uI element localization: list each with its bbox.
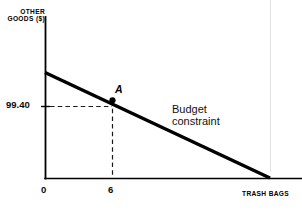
budget-constraint-line <box>45 73 270 179</box>
y-tick-label-99-40: 99.40 <box>6 100 30 111</box>
budget-constraint-figure: OTHER GOODS ($) TRASH BAGS 99.40 0 6 A B… <box>0 0 302 210</box>
x-axis-title: TRASH BAGS <box>242 190 289 197</box>
point-a-marker <box>109 97 115 103</box>
x-tick-label-0: 0 <box>41 185 46 196</box>
x-tick-label-6: 6 <box>108 185 113 196</box>
chart-canvas <box>0 0 302 210</box>
y-axis-title: OTHER GOODS ($) <box>7 8 45 23</box>
point-a-label: A <box>115 84 123 96</box>
budget-constraint-annotation: Budgetconstraint <box>172 103 220 128</box>
budget-constraint-annotation-line1: Budget <box>172 103 207 115</box>
budget-constraint-annotation-line2: constraint <box>172 115 220 127</box>
